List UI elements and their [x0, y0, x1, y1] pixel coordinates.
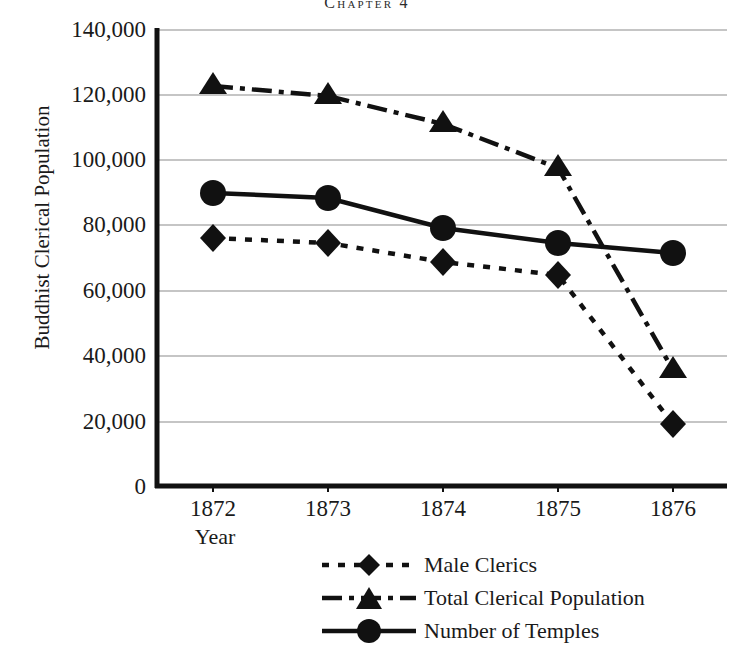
x-tick-label: 1874	[388, 497, 498, 521]
legend-key-circle-solid	[320, 618, 418, 644]
legend-item-male-clerics: Male Clerics	[320, 548, 734, 581]
legend-item-total-clerical-population: Total Clerical Population	[320, 581, 734, 614]
page-root: Chapter 4 Buddhist Clerical Population 1…	[0, 0, 734, 650]
series-male-clerics	[200, 224, 686, 438]
legend-label: Male Clerics	[418, 552, 537, 578]
legend-label: Number of Temples	[418, 618, 599, 644]
x-tick-label: 1875	[503, 497, 613, 521]
chart-figure: Buddhist Clerical Population 140,000 120…	[0, 0, 734, 650]
legend-label: Total Clerical Population	[418, 585, 645, 611]
legend-key-diamond-dotted	[320, 552, 418, 578]
chart-legend: Male Clerics Total Clerical Population N…	[320, 548, 734, 647]
legend-key-triangle-dashdot	[320, 585, 418, 611]
legend-item-number-of-temples: Number of Temples	[320, 614, 734, 647]
x-axis-title: Year	[160, 524, 270, 550]
x-tick-label: 1872	[158, 497, 268, 521]
x-tick-label: 1876	[618, 497, 728, 521]
x-tick-label: 1873	[273, 497, 383, 521]
